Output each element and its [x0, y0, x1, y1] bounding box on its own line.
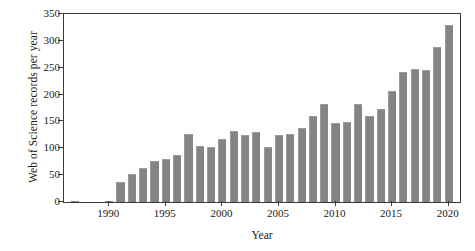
- bar: [139, 168, 147, 202]
- bar: [411, 69, 419, 202]
- bar: [230, 131, 238, 202]
- x-tick-mark: [221, 201, 222, 206]
- bar: [71, 201, 79, 202]
- x-tick-mark: [335, 201, 336, 206]
- bar: [286, 134, 294, 202]
- plot-area: [63, 13, 461, 203]
- y-tick-label: 50: [49, 169, 60, 180]
- bar: [399, 72, 407, 202]
- bar: [196, 146, 204, 202]
- y-tick-label: 200: [44, 88, 61, 99]
- bar: [433, 47, 441, 202]
- bar: [241, 135, 249, 202]
- bar: [162, 159, 170, 202]
- x-tick-mark: [278, 201, 279, 206]
- x-tick-mark: [108, 201, 109, 206]
- bar: [264, 147, 272, 202]
- bar: [207, 147, 215, 202]
- x-axis-title: Year: [63, 229, 461, 241]
- x-tick-label: 2010: [324, 208, 346, 219]
- y-axis-title: Web of Science records per year: [22, 5, 44, 209]
- bar: [445, 25, 453, 202]
- x-tick-label: 1995: [154, 208, 176, 219]
- bar: [331, 123, 339, 202]
- bar: [173, 155, 181, 202]
- x-tick-mark: [391, 201, 392, 206]
- bar: [150, 161, 158, 202]
- x-tick-label: 1990: [97, 208, 119, 219]
- y-tick-label: 150: [44, 115, 61, 126]
- bar: [320, 104, 328, 202]
- y-tick-label: 0: [55, 196, 61, 207]
- y-tick-label: 300: [44, 34, 61, 45]
- x-tick-mark: [448, 201, 449, 206]
- bar: [422, 70, 430, 202]
- bar: [218, 139, 226, 202]
- bar: [298, 128, 306, 202]
- bar: [365, 116, 373, 202]
- bar: [252, 132, 260, 202]
- bar: [309, 116, 317, 202]
- x-tick-label: 2000: [210, 208, 232, 219]
- x-tick-mark: [165, 201, 166, 206]
- x-tick-label: 2005: [267, 208, 289, 219]
- bar: [116, 182, 124, 202]
- bar: [388, 91, 396, 202]
- bar: [343, 122, 351, 202]
- bar: [184, 134, 192, 202]
- y-tick-label: 250: [44, 61, 61, 72]
- bar: [128, 174, 136, 202]
- y-tick-label: 350: [44, 8, 61, 19]
- x-tick-label: 2020: [437, 208, 459, 219]
- bar: [275, 135, 283, 202]
- bar-series: [64, 14, 460, 202]
- bar-chart-figure: Web of Science records per year 05010015…: [0, 0, 475, 251]
- bar: [354, 104, 362, 202]
- x-tick-label: 2015: [380, 208, 402, 219]
- bar: [377, 109, 385, 202]
- y-tick-label: 100: [44, 142, 61, 153]
